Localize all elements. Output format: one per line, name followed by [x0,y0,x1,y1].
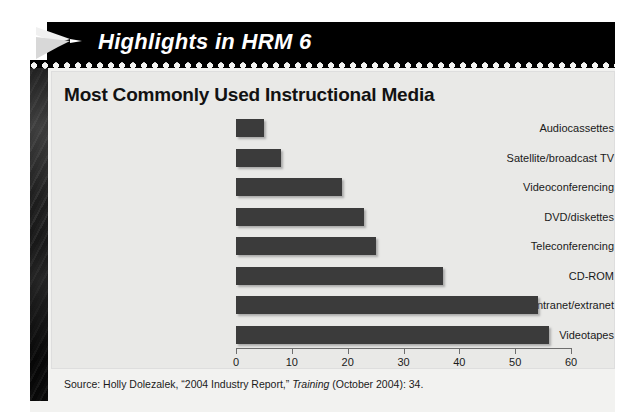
x-axis-tick [348,349,349,354]
chart-title: Most Commonly Used Instructional Media [64,84,434,106]
x-axis-tick-label: 50 [500,356,530,368]
x-axis-tick-label: 30 [389,356,419,368]
x-axis-tick [236,349,237,354]
source-note: Source: Holly Dolezalek, “2004 Industry … [64,378,423,390]
x-axis-tick [459,349,460,354]
bar-category-label: CD-ROM [436,269,614,283]
bar-category-label: Satellite/broadcast TV [436,151,614,165]
bar-category-label: Audiocassettes [436,121,614,135]
x-axis-tick-label: 10 [277,356,307,368]
source-suffix: (October 2004): 34. [329,378,423,390]
x-axis-tick [292,349,293,354]
banner-title: Highlights in HRM 6 [98,26,311,58]
source-prefix: Source: Holly Dolezalek, “2004 Industry … [64,378,292,390]
chevron-right-icon [36,25,106,61]
source-italic-title: Training [292,378,329,390]
bar-category-label: DVD/diskettes [436,210,614,224]
bar-chart-plot: AudiocassettesSatellite/broadcast TVVide… [52,112,614,362]
bar [236,208,364,226]
bar-category-label: Videoconferencing [436,180,614,194]
x-axis-tick [404,349,405,354]
perforation-dots [30,62,615,69]
bar [236,237,376,255]
bar [236,149,281,167]
bar [236,267,443,285]
x-axis-tick [571,349,572,354]
x-axis-tick-label: 0 [221,356,251,368]
x-axis-tick-label: 60 [556,356,586,368]
x-axis-tick-label: 40 [444,356,474,368]
bar-category-label: Teleconferencing [436,239,614,253]
bar [236,326,549,344]
x-axis-tick-label: 20 [333,356,363,368]
bar [236,296,538,314]
bar [236,119,264,137]
page-spine-shadow [30,66,48,401]
figure-page: Highlights in HRM 6 Most Commonly Used I… [0,0,641,412]
bar [236,178,342,196]
x-axis-tick [515,349,516,354]
